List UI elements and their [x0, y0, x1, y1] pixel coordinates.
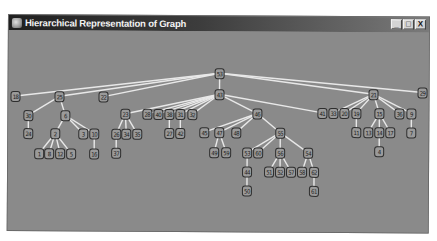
graph-node[interactable]: 4	[374, 146, 384, 157]
graph-node[interactable]: 55	[275, 127, 285, 138]
graph-node[interactable]: 60	[253, 147, 263, 158]
graph-node[interactable]: 3	[78, 128, 88, 139]
graph-node[interactable]: 22	[98, 91, 108, 102]
graph-node[interactable]: 14	[374, 127, 384, 138]
window-title: Hierarchical Representation of Graph	[25, 17, 186, 29]
app-icon	[12, 18, 22, 28]
graph-node[interactable]: 51	[264, 166, 274, 177]
minimize-button[interactable]: _	[391, 19, 402, 29]
graph-node[interactable]: 49	[209, 147, 219, 158]
graph-node[interactable]: 19	[351, 108, 361, 119]
graph-edge	[59, 72, 219, 97]
graph-node[interactable]: 25	[54, 91, 64, 102]
graph-node[interactable]: 43	[214, 89, 224, 100]
graph-node[interactable]: 44	[242, 166, 252, 177]
graph-node[interactable]: 21	[368, 89, 378, 100]
graph-node[interactable]: 41	[317, 107, 327, 118]
graph-node[interactable]: 30	[23, 110, 33, 121]
graph-node[interactable]: 58	[297, 166, 307, 177]
graph-node[interactable]: 11	[351, 127, 361, 138]
graph-canvas[interactable]: 5343182522212930624231018125162326343537…	[8, 30, 429, 233]
graph-node[interactable]: 62	[309, 166, 319, 177]
graph-edge	[220, 73, 374, 94]
graph-node[interactable]: 26	[111, 128, 121, 139]
graph-node[interactable]: 24	[23, 128, 33, 139]
graph-node[interactable]: 42	[175, 128, 185, 139]
graph-node[interactable]: 12	[55, 148, 65, 159]
graph-node[interactable]: 27	[164, 127, 174, 138]
graph-node[interactable]: 18	[10, 91, 20, 102]
graph-node[interactable]: 54	[303, 147, 313, 158]
graph-node[interactable]: 20	[339, 108, 349, 119]
graph-node[interactable]: 48	[231, 127, 241, 138]
graph-node[interactable]: 46	[252, 108, 262, 119]
graph-node[interactable]: 23	[120, 108, 130, 119]
graph-node[interactable]: 47	[214, 127, 224, 138]
maximize-button[interactable]: □	[403, 19, 414, 29]
graph-edge	[220, 73, 423, 92]
graph-node[interactable]: 31	[175, 109, 185, 120]
graph-node[interactable]: 5	[66, 148, 76, 159]
close-button[interactable]: X	[415, 19, 426, 29]
graph-node[interactable]: 10	[89, 128, 99, 139]
graph-node[interactable]: 36	[394, 108, 404, 119]
graph-node[interactable]: 59	[221, 147, 231, 158]
graph-node[interactable]: 53	[215, 68, 225, 79]
graph-node[interactable]: 1	[34, 148, 44, 159]
graph-node[interactable]: 38	[164, 108, 174, 119]
graph-node[interactable]: 32	[187, 109, 197, 120]
graph-node[interactable]: 61	[309, 185, 319, 196]
graph-node[interactable]: 37	[111, 147, 121, 158]
graph-node[interactable]: 16	[89, 148, 99, 159]
graph-node[interactable]: 29	[417, 87, 427, 98]
graph-node[interactable]: 56	[275, 147, 285, 158]
graph-node[interactable]: 33	[328, 107, 338, 118]
window-controls: _ □ X	[391, 19, 426, 29]
graph-node[interactable]: 7	[406, 127, 416, 138]
graph-node[interactable]: 15	[374, 108, 384, 119]
graph-node[interactable]: 40	[153, 108, 163, 119]
graph-edge	[219, 94, 322, 113]
graph-node[interactable]: 34	[121, 128, 131, 139]
graph-node[interactable]: 52	[275, 166, 285, 177]
graph-node[interactable]: 28	[142, 108, 152, 119]
graph-node[interactable]: 6	[60, 110, 70, 121]
graph-node[interactable]: 35	[132, 128, 142, 139]
graph-node[interactable]: 13	[363, 127, 373, 138]
graph-node[interactable]: 9	[406, 108, 416, 119]
graph-node[interactable]: 17	[385, 127, 395, 138]
graph-node[interactable]: 53	[242, 147, 252, 158]
graph-node[interactable]: 2	[50, 128, 60, 139]
graph-node[interactable]: 57	[286, 166, 296, 177]
graph-node[interactable]: 45	[199, 127, 209, 138]
graph-node[interactable]: 8	[44, 148, 54, 159]
graph-node[interactable]: 50	[242, 185, 252, 196]
graph-window: Hierarchical Representation of Graph _ □…	[7, 14, 430, 234]
